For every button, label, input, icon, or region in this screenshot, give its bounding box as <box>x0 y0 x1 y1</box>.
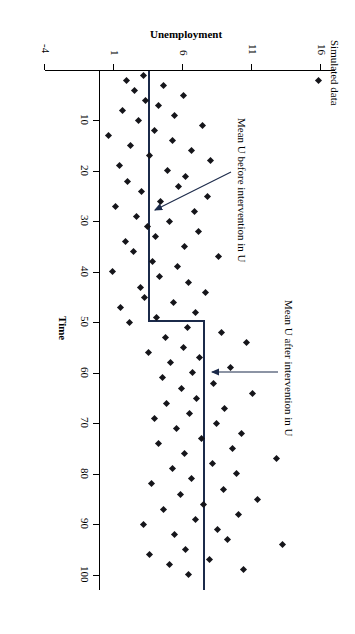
data-point <box>221 405 228 412</box>
data-point <box>185 571 192 578</box>
data-point <box>122 238 129 245</box>
data-point <box>156 273 163 280</box>
data-point <box>195 228 202 235</box>
data-point <box>130 248 137 255</box>
data-point <box>173 425 180 432</box>
data-point <box>105 132 112 139</box>
data-point <box>149 258 156 265</box>
data-point <box>126 319 133 326</box>
data-point <box>166 218 173 225</box>
data-point <box>135 117 142 124</box>
data-point <box>163 400 170 407</box>
data-point <box>206 556 213 563</box>
data-point <box>160 82 167 89</box>
data-point <box>192 309 199 316</box>
data-point <box>204 193 211 200</box>
data-point <box>192 516 199 523</box>
data-point <box>169 137 176 144</box>
data-point <box>140 521 147 528</box>
data-point <box>240 566 247 573</box>
data-point <box>233 470 240 477</box>
data-point <box>153 314 160 321</box>
data-point <box>169 465 176 472</box>
data-point <box>188 475 195 482</box>
data-point <box>157 198 164 205</box>
data-point <box>182 172 189 179</box>
data-point <box>214 526 221 533</box>
data-point <box>119 107 126 114</box>
data-point <box>138 188 145 195</box>
data-point <box>151 415 158 422</box>
data-point <box>171 112 178 119</box>
data-point <box>109 268 116 275</box>
plot-area: Simulated data -4 1 6 11 16 10 20 30 40 … <box>0 0 355 634</box>
data-point <box>170 299 177 306</box>
data-point <box>178 385 185 392</box>
data-point <box>151 127 158 134</box>
data-point <box>213 420 220 427</box>
data-point <box>279 541 286 548</box>
data-point <box>235 511 242 518</box>
data-point <box>180 92 187 99</box>
data-point <box>174 263 181 270</box>
data-point <box>189 369 196 376</box>
data-point <box>215 253 222 260</box>
data-point <box>144 223 151 230</box>
data-point <box>184 324 191 331</box>
data-point <box>177 491 184 498</box>
data-point <box>199 122 206 129</box>
data-point <box>273 455 280 462</box>
data-point <box>117 304 124 311</box>
data-point <box>162 334 169 341</box>
data-point <box>152 233 159 240</box>
data-point <box>200 501 207 508</box>
data-point <box>254 496 261 503</box>
figure-root: Simulated data -4 1 6 11 16 10 20 30 40 … <box>0 0 355 634</box>
data-point <box>148 480 155 487</box>
data-point <box>227 364 234 371</box>
data-point <box>180 344 187 351</box>
data-point <box>137 284 144 291</box>
data-point <box>193 395 200 402</box>
data-point <box>112 203 119 210</box>
data-point <box>185 278 192 285</box>
data-point <box>182 546 189 553</box>
data-point <box>188 147 195 154</box>
data-point <box>164 167 171 174</box>
data-point <box>160 506 167 513</box>
data-point <box>146 152 153 159</box>
data-point <box>181 243 188 250</box>
data-point <box>210 379 217 386</box>
data-point <box>116 162 123 169</box>
data-point <box>218 329 225 336</box>
data-point <box>155 440 162 447</box>
data-point <box>131 87 138 94</box>
data-point <box>159 374 166 381</box>
data-point <box>243 339 250 346</box>
data-point <box>249 390 256 397</box>
data-point <box>141 294 148 301</box>
data-point <box>220 485 227 492</box>
data-point <box>175 183 182 190</box>
data-point <box>127 142 134 149</box>
data-point <box>124 178 131 185</box>
data-point <box>238 430 245 437</box>
data-point <box>181 450 188 457</box>
data-point <box>191 208 198 215</box>
scatter-points <box>0 0 355 634</box>
data-point <box>140 72 147 79</box>
data-point <box>207 157 214 164</box>
data-point <box>142 97 149 104</box>
data-point <box>171 531 178 538</box>
data-point <box>202 289 209 296</box>
data-point <box>155 102 162 109</box>
data-point <box>224 536 231 543</box>
data-point <box>229 445 236 452</box>
data-point <box>166 561 173 568</box>
data-point <box>145 349 152 356</box>
data-point <box>167 359 174 366</box>
outlier-point <box>315 77 322 84</box>
data-point <box>198 435 205 442</box>
data-point <box>123 77 130 84</box>
data-point <box>186 410 193 417</box>
